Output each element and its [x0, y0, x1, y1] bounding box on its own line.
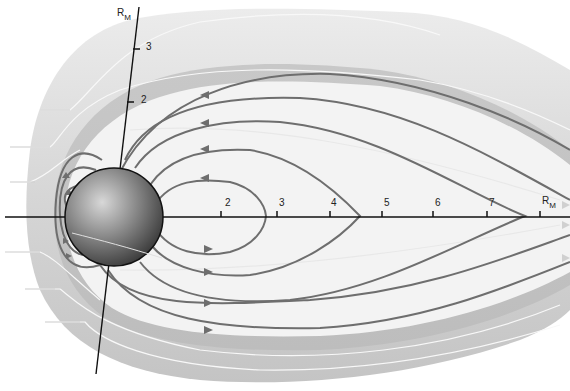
magnetosphere-diagram: 2 3 4 5 6 7 RM 3 2 RM — [0, 0, 570, 391]
vertical-tick-label-3: 3 — [146, 41, 152, 52]
tick-label-3: 3 — [279, 197, 285, 208]
tick-label-6: 6 — [435, 197, 441, 208]
tick-label-2: 2 — [225, 197, 231, 208]
tick-label-4: 4 — [331, 197, 337, 208]
planet — [65, 168, 163, 266]
tick-label-7: 7 — [489, 197, 495, 208]
vertical-unit-label: RM — [117, 7, 131, 22]
vertical-tick-label-2: 2 — [141, 94, 147, 105]
tick-label-5: 5 — [384, 197, 390, 208]
